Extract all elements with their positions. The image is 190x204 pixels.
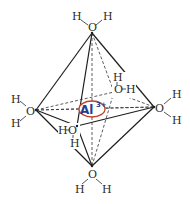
oxygen-atom: O [155,102,164,115]
hydrogen-atom: H [72,10,82,23]
oxygen-atom: O [88,168,97,181]
octahedral-complex-diagram: Al 3+ H H O H H O O H H O H H H O [0,0,190,204]
hydrogen-atom: H [172,88,182,101]
hydrogen-atom: H [58,124,68,137]
ion-symbol: Al [80,103,93,117]
water-ligand-top: H H O [72,10,113,34]
octahedron-solid-edges [36,33,154,166]
hydrogen-atom: H [126,83,136,96]
water-ligand-right: O H H [155,88,182,127]
central-ion: Al 3+ [79,101,107,117]
oxygen-atom: O [26,105,35,118]
hydrogen-atom: H [11,93,21,106]
hydrogen-atom: H [75,183,85,196]
hydrogen-atom: H [70,137,80,150]
hydrogen-atom: H [102,183,112,196]
water-ligand-back: H O H [112,71,136,98]
hydrogen-atom: H [11,117,21,130]
water-ligand-left: H H O [11,93,35,130]
octahedron-dashed-edges [36,33,154,166]
oxygen-atom: O [68,124,77,137]
vertex-points [35,32,155,167]
hydrogen-atom: H [103,10,113,23]
oxygen-atom: O [114,83,123,96]
ion-charge: 3+ [96,101,107,109]
hydrogen-atom: H [172,114,182,127]
water-ligand-bottom: O H H [75,168,112,196]
